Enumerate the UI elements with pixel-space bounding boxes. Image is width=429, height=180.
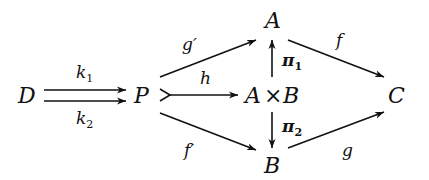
object-A: A bbox=[263, 8, 281, 33]
arrow-g bbox=[288, 112, 384, 148]
object-B: B bbox=[263, 153, 280, 178]
commutative-diagram: D P A A × B B C k1 k2 g′ h f′ π1 π2 f bbox=[0, 0, 429, 180]
label-k1: k1 bbox=[76, 62, 93, 85]
label-g: g bbox=[342, 140, 353, 160]
object-C: C bbox=[388, 83, 405, 108]
object-product-AxB: A × B bbox=[243, 83, 299, 108]
arrow-f-prime bbox=[160, 113, 256, 150]
label-k2: k2 bbox=[76, 108, 93, 131]
product-factor-A: A bbox=[243, 83, 261, 108]
object-D: D bbox=[17, 83, 36, 108]
product-times: × bbox=[264, 83, 282, 108]
label-f-prime: f′ bbox=[182, 140, 194, 160]
label-g-prime: g′ bbox=[182, 34, 197, 54]
label-pi1: π1 bbox=[281, 50, 302, 73]
label-f: f bbox=[334, 30, 345, 50]
product-factor-B: B bbox=[282, 83, 299, 108]
label-pi2: π2 bbox=[281, 116, 302, 139]
label-h: h bbox=[200, 68, 211, 88]
object-P: P bbox=[133, 83, 150, 108]
